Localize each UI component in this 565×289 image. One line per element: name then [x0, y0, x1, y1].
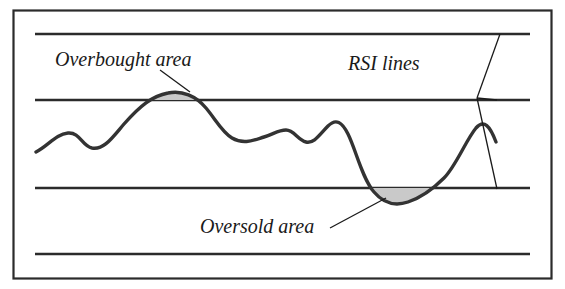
rsi-diagram: Overbought area Oversold area RSI lines — [0, 0, 565, 289]
overbought-label: Overbought area — [55, 48, 191, 71]
oversold-label: Oversold area — [200, 215, 314, 237]
rsi-diagram-canvas: Overbought area Oversold area RSI lines — [0, 0, 565, 289]
rsi-lines-label: RSI lines — [347, 52, 420, 74]
